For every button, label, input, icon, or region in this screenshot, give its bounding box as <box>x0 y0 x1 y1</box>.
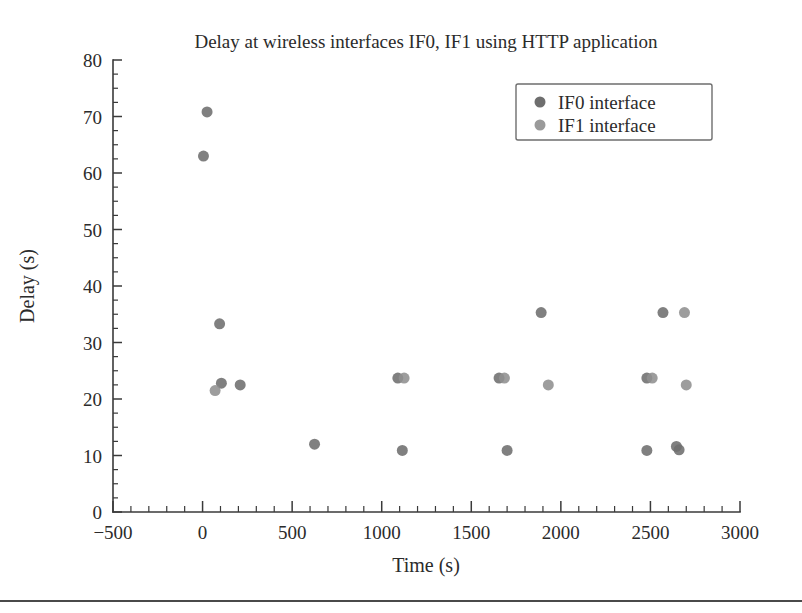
y-tick-label: 60 <box>83 163 102 184</box>
data-point <box>397 445 408 456</box>
x-tick-label: 2500 <box>631 522 669 543</box>
x-axis-title: Time (s) <box>392 554 460 577</box>
data-point <box>198 151 209 162</box>
x-tick-label: 0 <box>198 522 208 543</box>
chart-title: Delay at wireless interfaces IF0, IF1 us… <box>194 31 658 52</box>
data-point <box>202 106 213 117</box>
data-point <box>681 379 692 390</box>
y-axis-title: Delay (s) <box>16 249 39 323</box>
x-axis-ticks: −500050010001500200025003000 <box>93 501 759 543</box>
data-point-layer <box>198 106 692 455</box>
y-tick-label: 10 <box>83 446 102 467</box>
y-tick-label: 30 <box>83 333 102 354</box>
y-tick-label: 20 <box>83 389 102 410</box>
x-tick-label: 2000 <box>542 522 580 543</box>
legend-marker-if1 <box>535 120 546 131</box>
legend: IF0 interface IF1 interface <box>516 84 712 140</box>
y-axis-ticks: 01020304050607080 <box>83 50 122 523</box>
data-point <box>543 379 554 390</box>
data-point <box>210 385 221 396</box>
data-point <box>679 307 690 318</box>
x-tick-label: 1500 <box>452 522 490 543</box>
y-tick-label: 40 <box>83 276 102 297</box>
legend-label-if0: IF0 interface <box>558 92 656 113</box>
series-if0 <box>198 106 685 455</box>
y-tick-label: 70 <box>83 107 102 128</box>
data-point <box>214 318 225 329</box>
x-tick-label: −500 <box>93 522 132 543</box>
x-tick-label: 500 <box>278 522 307 543</box>
y-tick-label: 80 <box>83 50 102 71</box>
data-point <box>674 444 685 455</box>
data-point <box>657 307 668 318</box>
series-if1 <box>210 307 692 396</box>
bottom-rule <box>0 600 802 602</box>
data-point <box>309 439 320 450</box>
chart-figure: Delay at wireless interfaces IF0, IF1 us… <box>0 0 802 613</box>
scatter-plot: Delay at wireless interfaces IF0, IF1 us… <box>0 0 802 613</box>
x-tick-label: 3000 <box>721 522 759 543</box>
data-point <box>641 445 652 456</box>
x-tick-label: 1000 <box>363 522 401 543</box>
y-tick-label: 0 <box>93 502 103 523</box>
data-point <box>536 307 547 318</box>
data-point <box>647 373 658 384</box>
legend-marker-if0 <box>535 97 546 108</box>
data-point <box>499 373 510 384</box>
data-point <box>502 445 513 456</box>
data-point <box>399 373 410 384</box>
legend-label-if1: IF1 interface <box>558 115 656 136</box>
data-point <box>235 379 246 390</box>
y-tick-label: 50 <box>83 220 102 241</box>
